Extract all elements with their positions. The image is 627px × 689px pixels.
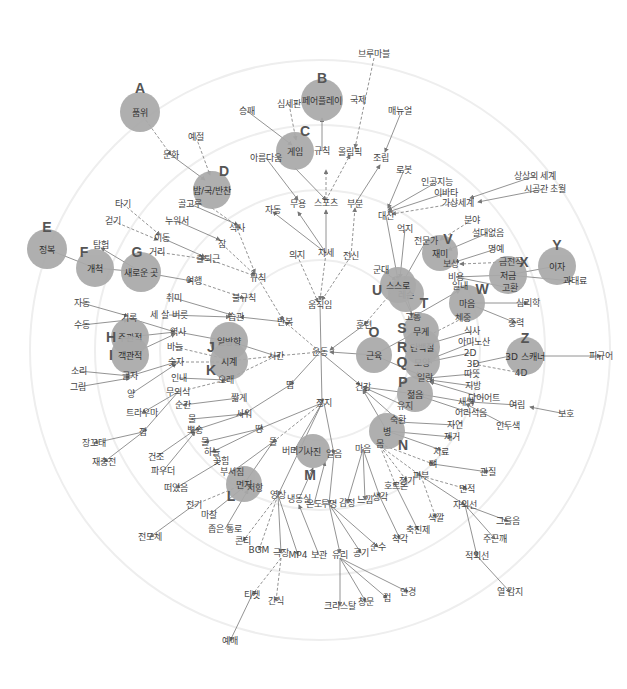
keyword-label: 매뉴얼 [388, 107, 412, 116]
keyword-label: 자외선 [453, 501, 477, 510]
keyword-label: 착각 [392, 535, 408, 544]
keyword-label: 건조 [148, 453, 164, 462]
keyword-label: 마찰 [201, 511, 217, 520]
hub-label: 개척 [87, 262, 103, 275]
keyword-label: 출퇴근 [196, 255, 220, 264]
keyword-label: 누워서 [165, 217, 189, 226]
keyword-label: 땅 [255, 425, 263, 434]
keyword-label: 전기 [186, 501, 202, 510]
keyword-label: 일랑 [417, 374, 433, 383]
keyword-label: 느낌 [357, 496, 373, 505]
hub-label: 근육 [366, 349, 382, 362]
connector-arrow [329, 504, 340, 553]
keyword-label: 적외선 [465, 552, 489, 561]
hub-label: 저금 [500, 269, 516, 282]
keyword-label: 컵 [383, 594, 391, 603]
keyword-label: 브루마블 [358, 50, 390, 59]
hub-letter-C: C [300, 123, 310, 139]
connector-arrow [320, 352, 360, 385]
keyword-label: 2D [464, 349, 477, 358]
connector-arrow [329, 504, 361, 553]
keyword-label: 호르몬 [384, 482, 408, 491]
keyword-label: 유지 [397, 402, 413, 411]
connector-arrow [258, 278, 283, 320]
keyword-label: 스포츠 [314, 199, 338, 208]
hub-label: 게임 [287, 145, 303, 158]
keyword-label: 인공지능 [421, 178, 453, 187]
hub-label: 정복 [39, 243, 55, 256]
hub-label: 스스로 [386, 279, 410, 292]
keyword-label: 어리석음 [455, 409, 487, 418]
keyword-label: 자동 [265, 206, 281, 215]
hub-letter-P: P [398, 374, 407, 390]
keyword-label: 가상세계 [442, 199, 474, 208]
hub-letter-K: K [206, 362, 216, 378]
keyword-label: 금전적 [499, 258, 523, 267]
keyword-label: 극장 [273, 549, 289, 558]
keyword-label: 시공간 초월 [524, 185, 567, 194]
hub-label: 마음 [459, 297, 475, 310]
keyword-label: 뽀송 [187, 426, 203, 435]
hub-label: 사진 [305, 445, 321, 458]
keyword-label: 수동 [74, 321, 90, 330]
mind-map-diagram: 품위A페어플레이B게임C밥/국/반찬D정복E개척F새로운 곳G주관적H객관적I일… [0, 0, 627, 689]
keyword-label: 피부 [413, 472, 429, 481]
keyword-label: 오래 [218, 376, 234, 385]
keyword-label: 따뜻 [464, 370, 480, 379]
keyword-label: 거리 [149, 248, 165, 257]
keyword-label: 정지 [316, 399, 332, 408]
keyword-label: 고환 [502, 284, 518, 293]
keyword-label: 전도체 [138, 533, 162, 542]
keyword-label: 안경 [400, 588, 416, 597]
keyword-label: 무의식 [166, 388, 190, 397]
hub-node-O: 근육 [356, 337, 392, 373]
keyword-label: 의지 [289, 251, 305, 260]
keyword-label: 기록 [121, 314, 137, 323]
hub-letter-W: W [475, 281, 488, 297]
keyword-label: 마음 [355, 445, 371, 454]
connector-arrow [243, 495, 278, 541]
keyword-label: 건강 [355, 383, 371, 392]
keyword-label: 심세판 [277, 100, 301, 109]
keyword-label: 운동 [312, 348, 328, 357]
keyword-label: 보관 [311, 551, 327, 560]
connector-arrow [385, 115, 400, 152]
keyword-label: 제거 [444, 433, 460, 442]
keyword-label: 지방 [465, 382, 481, 391]
keyword-label: 문화 [163, 151, 179, 160]
keyword-label: 이바타 [434, 189, 458, 198]
keyword-label: 로봇 [396, 166, 412, 175]
connector-arrow [465, 505, 477, 556]
keyword-label: 순간 [175, 401, 191, 410]
keyword-label: 부서짐 [220, 468, 244, 477]
hub-letter-I: I [109, 347, 113, 363]
hub-node-A: 품위 [120, 92, 160, 132]
keyword-label: 대신 [378, 212, 394, 221]
keyword-label: 보상 [443, 260, 459, 269]
connector-arrow [196, 137, 210, 175]
keyword-label: 골고루 [178, 200, 202, 209]
keyword-label: 색깔 [428, 514, 444, 523]
connector-arrow [297, 255, 318, 302]
connector-arrow [322, 256, 351, 300]
keyword-label: 숫자 [168, 358, 184, 367]
keyword-label: 일음 [326, 450, 342, 459]
keyword-label: BGM [249, 546, 270, 555]
keyword-label: 자동 [74, 299, 90, 308]
keyword-label: 전신 [343, 252, 359, 261]
keyword-label: 잠 [218, 240, 226, 249]
hub-letter-U: U [372, 282, 382, 298]
hub-label: 품위 [132, 106, 148, 119]
keyword-label: 조립 [373, 154, 389, 163]
hub-letter-Y: Y [552, 237, 561, 253]
hub-letter-E: E [42, 219, 51, 235]
keyword-label: 훈련 [356, 321, 372, 330]
connector-arrow [299, 505, 319, 555]
keyword-label: 자세 [318, 249, 334, 258]
connector-arrow [290, 352, 320, 385]
connector-arrow [363, 449, 380, 497]
connector-arrow [363, 449, 365, 500]
hub-letter-M: M [304, 467, 316, 483]
hub-letter-D: D [219, 163, 229, 179]
keyword-label: 생각 [372, 493, 388, 502]
